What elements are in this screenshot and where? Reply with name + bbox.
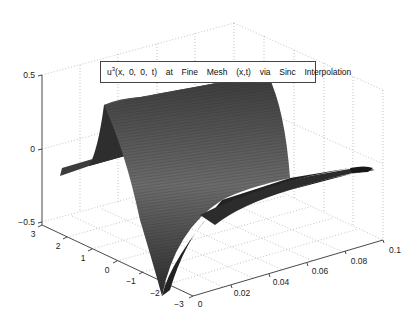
svg-text:0.04: 0.04 xyxy=(273,277,290,287)
svg-text:2: 2 xyxy=(56,241,61,251)
svg-text:0.02: 0.02 xyxy=(234,288,251,298)
surface-plot: 0.5 0 −0.5 3 2 1 0 −1 −2 −3 0 0.02 0.04 … xyxy=(0,0,420,323)
svg-text:0.1: 0.1 xyxy=(389,245,401,255)
svg-text:0: 0 xyxy=(30,144,35,154)
svg-text:3: 3 xyxy=(31,229,36,239)
svg-text:0.06: 0.06 xyxy=(312,266,329,276)
svg-text:0: 0 xyxy=(198,299,203,309)
surface xyxy=(60,73,375,296)
svg-text:0: 0 xyxy=(105,265,110,275)
svg-text:−2: −2 xyxy=(150,288,160,298)
legend: u3(x, 0, 0, t) at Fine Mesh (x,t) via Si… xyxy=(100,61,316,83)
t-tick-labels: 0 0.02 0.04 0.06 0.08 0.1 xyxy=(198,245,402,309)
svg-text:0.08: 0.08 xyxy=(351,256,368,266)
svg-text:1: 1 xyxy=(81,253,86,263)
legend-entry: u3(x, 0, 0, t) at Fine Mesh (x,t) via Si… xyxy=(107,66,351,77)
svg-text:0.5: 0.5 xyxy=(23,70,35,80)
svg-text:−3: −3 xyxy=(174,299,184,309)
svg-text:−1: −1 xyxy=(126,276,136,286)
z-tick-labels: 0.5 0 −0.5 xyxy=(18,70,35,227)
svg-text:−0.5: −0.5 xyxy=(18,217,35,227)
t-axis xyxy=(193,240,383,296)
